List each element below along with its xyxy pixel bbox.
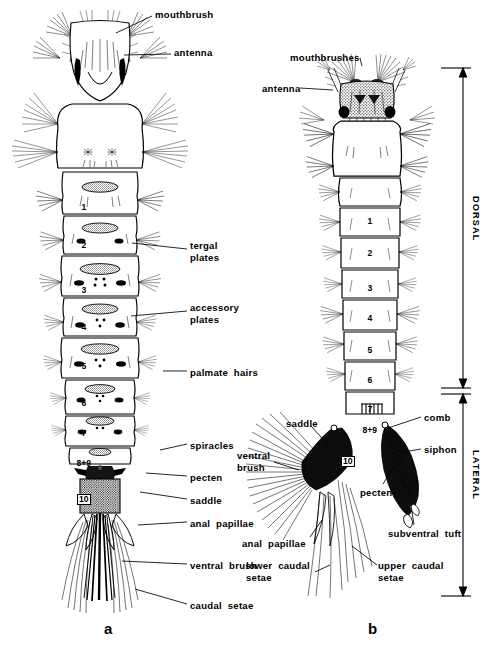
label-saddle: saddle: [286, 418, 318, 430]
segment-number: 4: [82, 322, 87, 332]
palmate-hair-2R: [115, 238, 124, 243]
lateral-bracket-label: LATERAL: [471, 450, 481, 500]
leader-tergal-plates: [132, 243, 187, 249]
leader-pecten: [146, 473, 187, 476]
segment-number: 6: [82, 398, 87, 408]
label-mouthbrush: mouthbrush: [155, 9, 213, 21]
label-pecten: pecten: [190, 472, 222, 484]
label-mouthbrushes: mouthbrushes: [290, 52, 360, 64]
label-upper-caudal-setae: upper caudal setae: [378, 560, 444, 583]
segment-number: 10: [77, 494, 92, 505]
segment-number: 3: [82, 285, 87, 295]
panel-b-larva-lateral: [246, 54, 435, 598]
figure-page: mouthbrushantennatergal platesaccessory …: [0, 0, 494, 657]
tergal-plate-8-9: [89, 448, 111, 455]
leader-caudal-setae: [135, 589, 187, 604]
label-ventral-brush: ventral brush: [237, 450, 270, 473]
leader-anal-papillae: [138, 522, 187, 525]
larva-morphology-drawing: [0, 0, 494, 657]
segment-1: [62, 172, 138, 214]
segment-number: 1: [82, 202, 87, 212]
panel-a-larva-dorsal: [12, 10, 188, 613]
leader-upper-caudal-setae: [352, 546, 377, 565]
panel-caption-a: a: [104, 620, 112, 637]
label-subventral-tuft: subventral tuft: [388, 528, 461, 540]
label-antenna: antenna: [262, 83, 301, 95]
label-siphon: siphon: [424, 444, 457, 456]
anal-papillae-b: [314, 492, 335, 546]
dorsal-bracket-label: DORSAL: [471, 196, 481, 241]
thorax-b: [333, 121, 402, 176]
label-spiracles: spiracles: [190, 440, 234, 452]
label-anal-papillae: anal papillae: [242, 538, 306, 550]
lateral-bracket: [441, 394, 471, 596]
tergal-plate-5: [81, 344, 119, 354]
label-lower-caudal-setae: lower caudal setae: [246, 560, 310, 583]
label-palmate-hairs: palmate hairs: [190, 367, 258, 379]
segment-number: 3: [368, 283, 373, 293]
label-saddle: saddle: [190, 495, 222, 507]
label-caudal-setae: caudal setae: [190, 600, 254, 612]
segment-number: 6: [368, 375, 373, 385]
label-antenna: antenna: [174, 47, 213, 59]
tergal-plate-4: [82, 304, 118, 314]
dorsal-bracket: [441, 68, 471, 388]
segment-number: 10: [341, 456, 356, 467]
label-tergal-plates: tergal plates: [190, 240, 219, 263]
label-anal-papillae: anal papillae: [190, 518, 254, 530]
label-comb: comb: [424, 412, 451, 424]
segment-number: 5: [368, 345, 373, 355]
leader-antenna: [124, 54, 171, 55]
leader-comb: [388, 417, 421, 428]
leader-saddle: [140, 492, 187, 499]
thorax: [57, 104, 144, 168]
ventral-brush-b: [246, 412, 316, 540]
leader-accessory-plates: [131, 311, 187, 316]
segment-number: 7: [368, 404, 373, 414]
segment-number: 1: [368, 216, 373, 226]
abdominal-segments-a: [61, 172, 139, 446]
tergal-plate-3: [80, 264, 120, 275]
leader-mouthbrushes: [360, 58, 362, 66]
label-pecten: pecten: [360, 487, 392, 499]
segment-number: 8+9: [363, 425, 378, 435]
tergal-plate-1: [82, 182, 118, 192]
segment-2: [63, 216, 137, 254]
segment-number: 4: [368, 313, 373, 323]
label-accessory-plates: accessory plates: [190, 302, 239, 325]
leader-lower-caudal-setae: [315, 565, 330, 572]
segment-number: 8+9: [77, 458, 92, 468]
tergal-plate-2: [82, 223, 118, 233]
segment-3: [61, 256, 139, 296]
segment-number: 5: [82, 361, 87, 371]
panel-caption-b: b: [368, 620, 377, 637]
tergal-plate-6: [85, 385, 115, 394]
segment-1-b: [339, 178, 402, 206]
leader-antenna: [300, 88, 333, 90]
view-brackets: [441, 68, 471, 596]
leader-spiracles: [160, 444, 187, 450]
tergal-plate-7: [86, 417, 114, 425]
leader-ventral-brush: [122, 561, 187, 564]
segment-number: 2: [368, 248, 373, 258]
segment-number: 2: [82, 240, 87, 250]
siphon: [381, 424, 418, 516]
segment-number: 7: [82, 428, 87, 438]
